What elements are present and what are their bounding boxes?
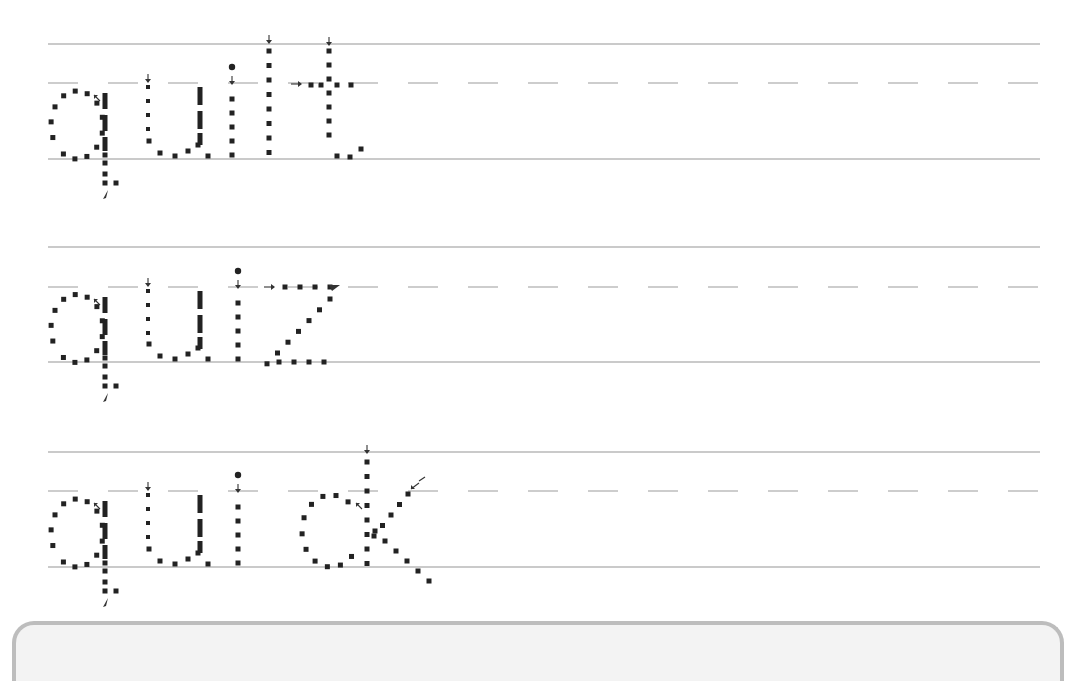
letter-q	[49, 292, 119, 402]
traceable-word-quick	[49, 445, 432, 607]
writing-row-2	[48, 247, 1040, 402]
traceable-word-quilt	[49, 35, 364, 199]
letter-k	[364, 445, 432, 584]
letter-q	[49, 497, 119, 607]
letter-q	[49, 89, 119, 199]
letter-c	[300, 493, 362, 569]
writing-row-1	[48, 35, 1040, 199]
letter-u	[145, 74, 211, 159]
traceable-word-quiz	[49, 268, 340, 402]
letter-z	[264, 284, 340, 366]
writing-row-3	[48, 445, 1040, 607]
answer-box	[12, 621, 1064, 681]
letter-i	[235, 472, 241, 566]
letter-l	[266, 35, 272, 155]
letter-i	[229, 64, 235, 158]
letter-i	[235, 268, 241, 362]
letter-t	[291, 37, 364, 160]
letter-u	[145, 278, 211, 362]
letter-u	[145, 482, 211, 567]
